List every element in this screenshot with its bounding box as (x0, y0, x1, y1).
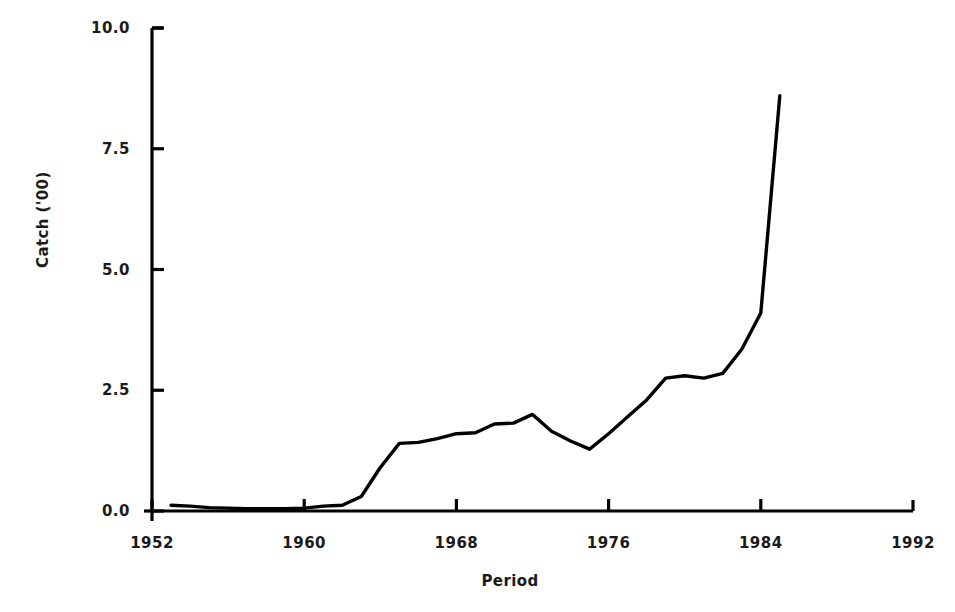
y-axis-ticks (144, 28, 164, 511)
x-axis-tick-label: 1992 (891, 534, 935, 552)
chart-figure: 0.02.55.07.510.0 19521960196819761984199… (0, 0, 955, 612)
data-series-group (171, 96, 780, 509)
y-axis-title: Catch ('00) (34, 171, 52, 268)
x-axis-tick-label: 1960 (282, 534, 326, 552)
x-axis-tick-label: 1952 (130, 534, 174, 552)
y-axis-tick-label: 0.0 (40, 502, 130, 520)
axis-group (144, 28, 913, 521)
x-axis-title: Period (481, 572, 538, 590)
y-axis-tick-label: 2.5 (40, 381, 130, 399)
y-axis-tick-label: 5.0 (40, 261, 130, 279)
y-axis-tick-label: 10.0 (40, 19, 130, 37)
x-axis-tick-label: 1968 (435, 534, 479, 552)
x-axis-tick-label: 1984 (739, 534, 783, 552)
line-chart-canvas (0, 0, 955, 612)
x-axis-tick-label: 1976 (587, 534, 631, 552)
y-axis-tick-label: 7.5 (40, 140, 130, 158)
data-line-catch (171, 96, 780, 509)
